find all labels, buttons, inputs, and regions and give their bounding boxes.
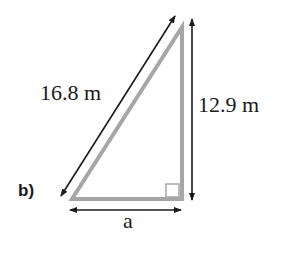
right-triangle-diagram: 16.8 m 12.9 m a b)	[0, 0, 284, 253]
hypotenuse-arrow	[61, 16, 175, 196]
hypotenuse-label: 16.8 m	[40, 80, 101, 106]
triangle-shape	[72, 27, 182, 199]
vertical-side-label: 12.9 m	[198, 92, 259, 118]
part-label: b)	[18, 181, 34, 201]
right-angle-marker	[166, 184, 179, 197]
base-label: a	[123, 208, 133, 234]
triangle-figure	[0, 0, 284, 253]
